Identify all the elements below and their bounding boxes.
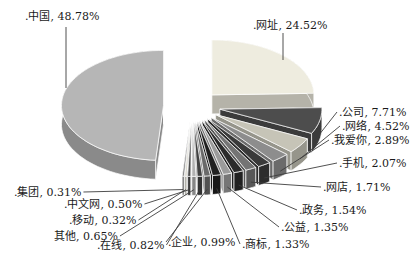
pie-chart-figure: .网址, 24.52% .公司, 7.71% .网络, 4.52% .我爱你, … bbox=[0, 0, 415, 267]
pie-slice-wall-7 bbox=[223, 173, 231, 193]
pie-label-wangzhi: .网址, 24.52% bbox=[253, 19, 327, 32]
pie-slice-wall-14 bbox=[182, 176, 184, 195]
leader-line bbox=[227, 187, 279, 227]
pie-slice-top-0 bbox=[212, 40, 314, 95]
pie-label-zhongwenwang: .中文网, 0.50% bbox=[64, 198, 142, 211]
pie-label-yidong: .移动, 0.32% bbox=[69, 214, 136, 227]
leader-line bbox=[83, 190, 183, 192]
pie-label-woaini: .我爱你, 2.89% bbox=[331, 134, 409, 147]
pie-label-gongsi: .公司, 7.71% bbox=[339, 106, 406, 119]
pie-label-jituan: .集团, 0.31% bbox=[14, 186, 81, 199]
pie-slice-wall-8 bbox=[213, 175, 221, 195]
pie-label-wangdian: .网店, 1.71% bbox=[323, 181, 390, 194]
leader-line bbox=[239, 185, 297, 210]
pie-slice-wall-11 bbox=[192, 176, 196, 195]
leader-line bbox=[120, 190, 194, 236]
pie-label-gongyi: .公益, 1.35% bbox=[281, 221, 348, 234]
pie-label-qiye: .企业, 0.99% bbox=[168, 236, 235, 249]
pie-slice-wall-5 bbox=[246, 167, 256, 189]
leader-line bbox=[166, 189, 207, 242]
pie-label-zhengwu: .政务, 1.54% bbox=[299, 204, 366, 217]
pie-slice-wall-13 bbox=[185, 176, 187, 195]
pie-slice-wall-6 bbox=[234, 171, 243, 192]
pie-label-shangbiao: .商标, 1.33% bbox=[242, 238, 309, 251]
pie-label-qita: 其他, 0.65% bbox=[54, 230, 118, 243]
pie-label-zhongguo: .中国, 48.78% bbox=[25, 10, 99, 23]
leader-line bbox=[138, 190, 185, 220]
pie-label-shouji: .手机, 2.07% bbox=[339, 157, 406, 170]
pie-label-wangluo: .网络, 4.52% bbox=[342, 120, 409, 133]
